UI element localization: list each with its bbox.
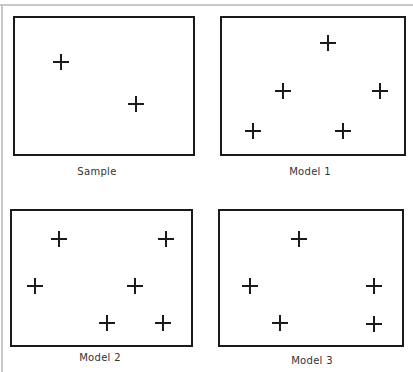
plus-marker-icon [335, 123, 351, 139]
plus-marker-icon [291, 231, 307, 247]
plus-marker-icon [99, 315, 115, 331]
panel-label-model-2: Model 2 [79, 352, 121, 363]
plus-marker-icon [127, 278, 143, 294]
panel-sample [13, 16, 195, 156]
panel-label-model-1: Model 1 [289, 166, 331, 177]
plus-marker-icon [53, 54, 69, 70]
plus-marker-icon [275, 83, 291, 99]
frame-border-left [1, 4, 3, 372]
plus-marker-icon [272, 315, 288, 331]
plus-marker-icon [27, 278, 43, 294]
plus-marker-icon [372, 83, 388, 99]
plus-marker-icon [51, 231, 67, 247]
frame-border-top [0, 4, 413, 6]
plus-marker-icon [320, 35, 336, 51]
panel-label-model-3: Model 3 [291, 355, 333, 366]
plus-marker-icon [366, 316, 382, 332]
plus-marker-icon [158, 231, 174, 247]
plus-marker-icon [155, 315, 171, 331]
plus-marker-icon [245, 123, 261, 139]
panel-label-sample: Sample [77, 166, 116, 177]
plus-marker-icon [242, 278, 258, 294]
plus-marker-icon [128, 96, 144, 112]
plus-marker-icon [366, 278, 382, 294]
